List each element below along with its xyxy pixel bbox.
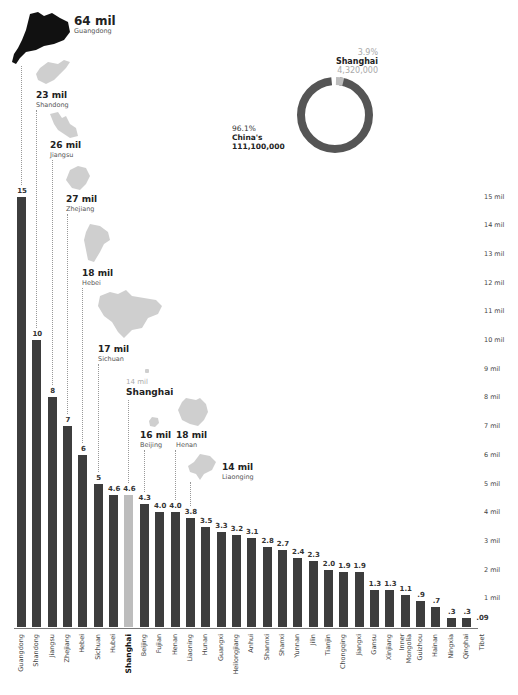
callout-value: 27 mil (66, 194, 97, 204)
x-tick-label: Fujian (155, 634, 164, 653)
y-tick-label: 11 mil (484, 307, 504, 315)
callout-province: Shandong (36, 101, 69, 109)
bar-fujian (155, 512, 164, 627)
callout-value: 14 mil (126, 378, 148, 386)
y-tick-label: 12 mil (484, 279, 504, 287)
liaoning-map-icon (186, 452, 218, 482)
callout-value: 16 mil (140, 430, 171, 440)
callout-province: Zhejiang (66, 205, 94, 213)
x-tick-label: Guangxi (217, 634, 226, 661)
callout-value: 18 mil (82, 268, 113, 278)
bar-inner-mongolia (401, 595, 410, 627)
shanghai-label: Shanghai (310, 57, 378, 66)
bar-hunan (201, 527, 210, 627)
shanghai-percent: 3.9% (310, 48, 378, 57)
bar-value-label: 4.3 (135, 494, 155, 502)
bar-ningxia (447, 618, 456, 627)
bar-gansu (370, 590, 379, 627)
shandong-map-icon (34, 58, 74, 86)
bar-shanghai (124, 495, 133, 627)
bar-value-label: 4.6 (119, 485, 139, 493)
x-tick-label: Hebei (78, 634, 87, 653)
bar-yunnan (293, 558, 302, 627)
hebei-map-icon (82, 222, 112, 264)
x-tick-label: Shannxi (263, 634, 272, 660)
callout-value: 26 mil (50, 140, 81, 150)
x-tick-label: Zhejiang (63, 634, 72, 662)
x-tick-label: Jiangsu (48, 634, 57, 657)
callout-province: Liaonging (222, 473, 254, 481)
callout-province: Hebei (82, 279, 101, 287)
bar-zhejiang (63, 426, 72, 627)
donut-ring (296, 76, 374, 154)
callout-value: 17 mil (98, 344, 129, 354)
leader-line (82, 288, 83, 443)
x-tick-label: Heilongjiang (232, 634, 241, 675)
leader-line (190, 482, 191, 506)
china-value: 111,100,000 (232, 142, 292, 151)
x-tick-label: Shandong (32, 634, 41, 667)
x-tick-label: Ningxia (447, 634, 456, 659)
x-tick-label: Tianjin (324, 634, 333, 655)
callout-value: 18 mil (176, 430, 207, 440)
bar-value-label: 15 (12, 187, 32, 195)
x-tick-label: Shanxi (278, 634, 287, 656)
china-percent: 96.1% (232, 124, 292, 133)
leader-line (98, 364, 99, 472)
population-chart: 1 mil2 mil3 mil4 mil5 mil6 mil7 mil8 mil… (0, 0, 518, 695)
bar-value-label: 2.3 (304, 551, 324, 559)
bar-guangxi (217, 532, 226, 627)
bar-liaoning (186, 518, 195, 627)
bar-hebei (78, 455, 87, 627)
y-tick-label: 8 mil (484, 393, 500, 401)
bar-value-label: .09 (473, 614, 493, 622)
x-tick-label: Qinghai (462, 634, 471, 659)
x-tick-label: Tibet (478, 634, 487, 650)
donut-label-shanghai: 3.9% Shanghai 4,320,000 (310, 48, 378, 75)
bar-xinjiang (385, 590, 394, 627)
leader-line (21, 66, 22, 185)
y-tick-label: 2 mil (484, 566, 500, 574)
bar-shanxi (278, 550, 287, 627)
china-label: China's (232, 133, 292, 142)
y-tick-label: 7 mil (484, 422, 500, 430)
x-tick-label: Xinjiang (385, 634, 394, 660)
x-tick-label: Anhui (247, 634, 256, 653)
bar-value-label: 1.9 (350, 562, 370, 570)
callout-province: Shanghai (126, 387, 173, 397)
callout-province: Sichuan (98, 355, 124, 363)
bar-jiangxi (355, 572, 364, 627)
bar-beijing (140, 504, 149, 627)
bar-value-label: 3.1 (242, 528, 262, 536)
henan-map-icon (176, 396, 210, 428)
bar-shannxi (263, 547, 272, 627)
leader-line (67, 214, 68, 414)
bar-guangdong (17, 197, 26, 628)
bar-hainan (431, 607, 440, 627)
callout-province: Guangdong (74, 27, 112, 35)
leader-line (144, 450, 145, 492)
bar-value-label: 6 (73, 445, 93, 453)
bar-shandong (32, 340, 41, 627)
y-tick-label: 9 mil (484, 365, 500, 373)
leader-line (52, 160, 53, 385)
callout-province: Beijing (140, 441, 162, 449)
bar-henan (171, 512, 180, 627)
x-tick-label: Hubei (109, 634, 118, 653)
bar-anhui (247, 538, 256, 627)
y-tick-label: 5 mil (484, 480, 500, 488)
bar-guizhou (416, 601, 425, 627)
bar-value-label: 8 (43, 387, 63, 395)
callout-province: Jiangsu (50, 151, 73, 159)
x-tick-label: Inner Mongolia (399, 634, 413, 663)
leader-line (175, 450, 176, 500)
x-tick-label: Liaoning (186, 634, 195, 662)
bar-jiangsu (48, 397, 57, 627)
bar-heilongjiang (232, 535, 241, 627)
shanghai-value: 4,320,000 (310, 66, 378, 75)
x-axis-baseline (14, 628, 478, 629)
x-tick-label: Guizhou (416, 634, 425, 661)
sichuan-map-icon (96, 288, 164, 340)
leader-line (36, 110, 37, 328)
x-tick-label: Shanghai (124, 634, 133, 673)
